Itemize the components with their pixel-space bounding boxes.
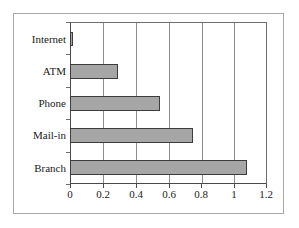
category-label-mail-in: Mail-in xyxy=(33,129,66,142)
category-label-branch: Branch xyxy=(34,162,66,175)
bar-mail-in xyxy=(70,128,193,143)
y-tickmark-top xyxy=(66,22,70,23)
gridline-1.0 xyxy=(234,23,235,183)
bar-phone xyxy=(70,96,160,111)
bar-atm xyxy=(70,64,118,79)
x-tick-label-1.2: 1.2 xyxy=(246,188,286,201)
gridline-0.6 xyxy=(169,23,170,183)
category-label-internet: Internet xyxy=(32,33,66,46)
bar-internet xyxy=(70,32,73,46)
y-tickmark-4 xyxy=(66,152,70,153)
gridline-0.8 xyxy=(202,23,203,183)
bar-branch xyxy=(70,160,247,175)
y-tickmark-3 xyxy=(66,119,70,120)
category-label-phone: Phone xyxy=(39,97,67,110)
category-label-atm: ATM xyxy=(43,65,66,78)
y-tickmark-1 xyxy=(66,54,70,55)
y-tickmark-2 xyxy=(66,87,70,88)
bar-chart-figure: Internet ATM Phone Mail-in Branch 0 0.2 … xyxy=(0,0,299,228)
